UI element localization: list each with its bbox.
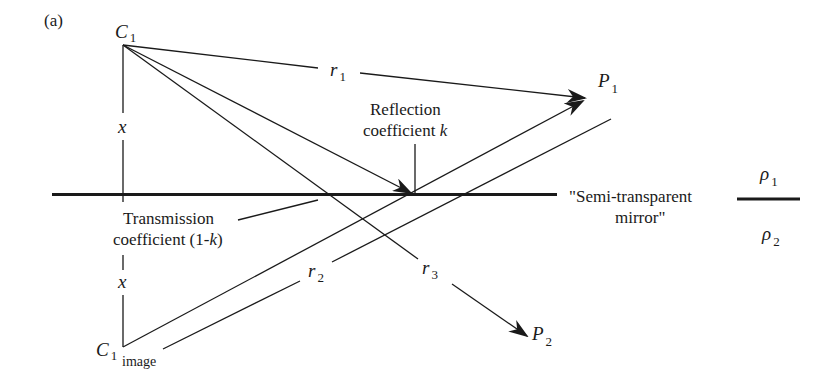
r2-label: r2 [308,260,324,285]
image-point-label: C1 [96,339,117,363]
r3-line-b-arrow [452,284,527,336]
r1-label: r1 [330,59,346,84]
x-distance-label-top: x [117,116,127,137]
mirror-label-line1: "Semi-transparent [569,187,692,206]
mirror-label-line2: mirror" [615,208,665,227]
transmission-label-line1: Transmission [123,209,215,228]
image-point-subscript: image [122,354,156,369]
r1-line-a [123,45,318,68]
p1-label: P1 [597,70,618,96]
x-distance-label-bottom: x [117,271,127,292]
panel-label: (a) [44,11,63,30]
rho1-label: ρ1 [759,163,778,189]
transmission-leader-line [238,200,318,220]
transmission-label-line2: coefficient (1-k) [113,230,223,249]
r3-label: r3 [422,257,438,282]
source-point-label: C1 [115,21,136,45]
rho2-label: ρ2 [761,223,780,249]
p2-label: P2 [531,323,552,349]
image-method-diagram: (a) C1 C1 image P1 P2 x x r1 r2 r3 Refle… [0,0,836,388]
reflection-label-line2: coefficient k [363,121,448,140]
reflection-label-line1: Reflection [370,100,441,119]
r1-line-b-arrow [360,73,585,98]
incident-ray-to-mirror [123,45,411,193]
